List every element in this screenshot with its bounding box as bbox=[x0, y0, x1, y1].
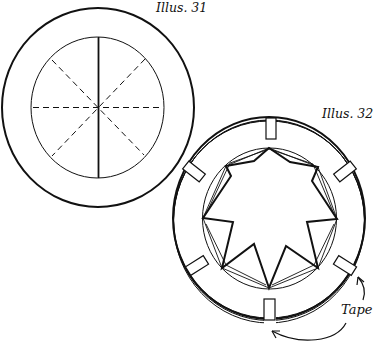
tab-bottom bbox=[264, 299, 275, 320]
illus-31-caption: Illus. 31 bbox=[156, 0, 207, 15]
illus-32-figure bbox=[173, 117, 365, 340]
tape-label: Tape bbox=[341, 302, 372, 317]
arrow-to-bottom-tab bbox=[272, 323, 346, 340]
illus-32-caption: Illus. 32 bbox=[322, 106, 373, 121]
eight-pointed-star bbox=[203, 148, 337, 288]
arrow-up-to-ring bbox=[358, 277, 364, 300]
tab-upper-left bbox=[183, 161, 206, 182]
tab-lower-right bbox=[333, 256, 356, 276]
tab-lower-left bbox=[185, 256, 208, 276]
tab-upper-right bbox=[334, 161, 357, 182]
tab-top bbox=[266, 118, 276, 139]
illus-31-figure bbox=[2, 8, 194, 207]
